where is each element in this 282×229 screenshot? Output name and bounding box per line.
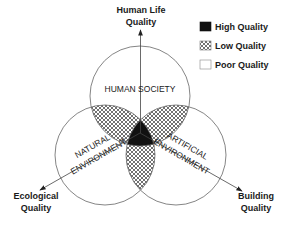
- legend: High Quality Low Quality Poor Quality: [200, 22, 269, 70]
- legend-label-high: High Quality: [215, 22, 268, 32]
- label-human-society: HUMAN SOCIETY: [105, 84, 176, 94]
- axis-label-building: Building: [238, 191, 274, 201]
- axis-label-ecological-quality: Quality: [21, 203, 52, 213]
- legend-swatch-poor: [200, 60, 211, 69]
- axis-label-ecological: Ecological: [13, 191, 58, 201]
- legend-label-poor: Poor Quality: [215, 60, 269, 70]
- legend-swatch-high: [200, 22, 211, 31]
- legend-swatch-low: [200, 41, 211, 50]
- legend-label-low: Low Quality: [215, 41, 266, 51]
- axis-label-building-quality: Quality: [241, 203, 272, 213]
- axis-label-human-life: Human Life: [116, 5, 165, 15]
- axis-label-human-life-quality: Quality: [126, 17, 157, 27]
- venn-diagram: Human Life Quality Ecological Quality Bu…: [0, 0, 282, 229]
